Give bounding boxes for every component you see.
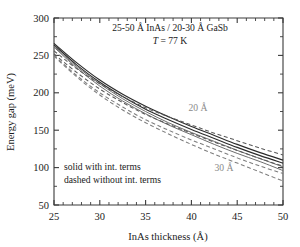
data-curve	[54, 54, 283, 166]
chart-title-composition: 25-50 Å InAs / 20-30 Å GaSb	[112, 22, 228, 33]
y-tick-label: 300	[33, 13, 49, 24]
x-axis-title: InAs thickness (Å)	[128, 231, 208, 243]
x-tick-label: 45	[232, 211, 243, 222]
chart-title-temperature: T = 77 K	[153, 35, 188, 46]
curve-label-30a: 30 Å	[215, 162, 234, 173]
legend-line-solid: solid with int. terms	[64, 161, 141, 172]
y-tick-label: 100	[33, 162, 49, 173]
data-curve	[54, 55, 283, 173]
y-tick-label: 250	[33, 50, 49, 61]
legend-line-dashed: dashed without int. terms	[64, 174, 161, 185]
x-tick-label: 50	[278, 211, 289, 222]
y-axis-title: Energy gap (meV)	[5, 73, 17, 151]
x-tick-label: 25	[49, 211, 60, 222]
data-curve	[54, 51, 283, 155]
y-axis-tick-labels: 30025020015010050	[33, 13, 49, 211]
y-tick-label: 50	[39, 200, 50, 211]
chart-canvas: 30025020015010050 253035404550 Energy ga…	[0, 0, 300, 247]
data-curve	[54, 43, 283, 160]
x-tick-label: 40	[186, 211, 197, 222]
x-axis-tick-labels: 253035404550	[49, 211, 289, 222]
x-tick-label: 35	[140, 211, 151, 222]
y-tick-label: 150	[33, 125, 49, 136]
temperature-value: = 77 K	[158, 35, 187, 46]
chart-figure: 30025020015010050 253035404550 Energy ga…	[0, 0, 300, 247]
x-tick-label: 30	[95, 211, 106, 222]
curve-label-20a: 20 Å	[189, 102, 208, 113]
data-curve	[54, 45, 283, 163]
y-tick-label: 200	[33, 87, 49, 98]
